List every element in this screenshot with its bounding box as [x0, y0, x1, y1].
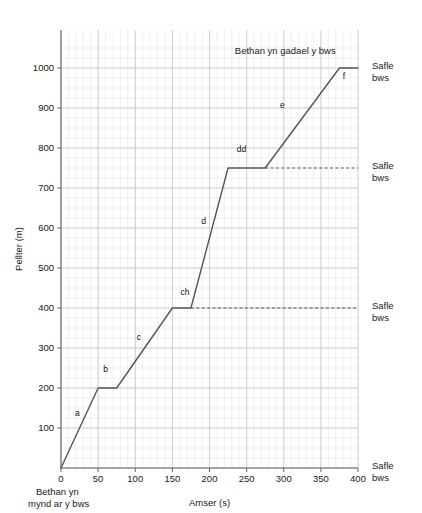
chart-page: 1002003004005006007008009001000 05010015…: [0, 0, 422, 513]
segment-label-dd: dd: [237, 144, 247, 154]
y-axis-tick-label: 600: [38, 222, 54, 233]
segment-label-e: e: [280, 100, 285, 110]
x-axis-tick-label: 300: [276, 473, 292, 484]
y-axis-tick-label: 900: [38, 102, 54, 113]
y-axis-tick-label: 100: [38, 422, 54, 433]
stop-750-line2: bws: [372, 172, 389, 183]
annotation-leave-bus: Bethan yn gadael y bws: [235, 45, 336, 56]
y-axis-title: Pellter (m): [13, 227, 24, 271]
x-axis-tick-label: 100: [127, 473, 143, 484]
stop-750-line1: Safle: [372, 160, 394, 171]
chart-annotations: Bethan yn gadael y bws: [235, 45, 336, 56]
y-axis-tick-label: 1000: [33, 62, 54, 73]
stop-400-line2: bws: [372, 312, 389, 323]
y-axis-tick-label: 200: [38, 382, 54, 393]
x-axis-tick-label: 400: [350, 473, 366, 484]
segment-label-c: c: [137, 332, 142, 342]
stop-1000-line1: Safle: [372, 60, 394, 71]
y-axis-tick-label: 400: [38, 302, 54, 313]
x-axis-title: Amser (s): [189, 497, 230, 508]
x-axis-tick-label: 200: [202, 473, 218, 484]
stop-0-line1: Safle: [372, 460, 394, 471]
y-axis-tick-label: 300: [38, 342, 54, 353]
stop-0-line2: bws: [372, 472, 389, 483]
x-axis-tick-label: 250: [239, 473, 255, 484]
board-bus-note-line2: mynd ar y bws: [28, 498, 89, 509]
y-axis-tick-label: 800: [38, 142, 54, 153]
stop-400-line1: Safle: [372, 300, 394, 311]
segment-label-a: a: [75, 408, 80, 418]
x-axis-tick-label: 50: [93, 473, 104, 484]
y-axis-tick-label: 700: [38, 182, 54, 193]
segment-label-ch: ch: [181, 287, 190, 297]
board-bus-note-line1: Bethan yn: [36, 486, 79, 497]
x-axis-tick-label: 350: [313, 473, 329, 484]
segment-label-b: b: [103, 364, 108, 374]
x-axis-tick-label: 0: [58, 473, 63, 484]
chart-background: [0, 0, 422, 513]
segment-label-d: d: [201, 216, 206, 226]
distance-time-chart: 1002003004005006007008009001000 05010015…: [0, 0, 422, 513]
stop-1000-line2: bws: [372, 72, 389, 83]
y-axis-tick-label: 500: [38, 262, 54, 273]
x-axis-tick-label: 150: [164, 473, 180, 484]
